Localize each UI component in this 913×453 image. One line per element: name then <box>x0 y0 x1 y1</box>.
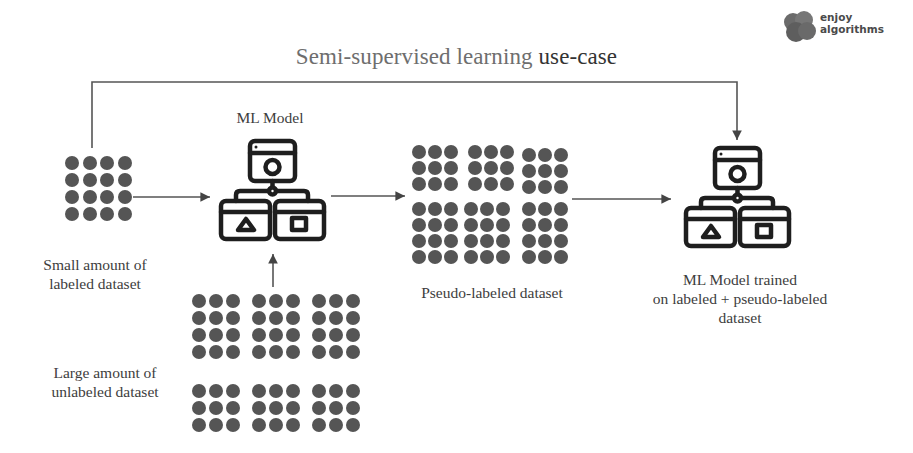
data-point-dot <box>554 148 568 162</box>
data-point-dot <box>480 218 494 232</box>
data-point-dot <box>192 328 206 342</box>
data-point-dot <box>538 164 552 178</box>
data-point-dot <box>554 202 568 216</box>
data-point-dot <box>412 202 426 216</box>
data-point-dot <box>286 294 300 308</box>
data-point-dot <box>269 311 283 325</box>
data-point-dot <box>286 345 300 359</box>
data-point-dot <box>83 190 97 204</box>
data-point-dot <box>312 294 326 308</box>
data-point-dot <box>312 345 326 359</box>
data-point-dot <box>412 234 426 248</box>
data-point-dot <box>500 161 514 175</box>
pseudo-labeled-dataset-label: Pseudo-labeled dataset <box>392 283 592 302</box>
labeled-dataset-dots <box>65 156 132 221</box>
data-point-dot <box>522 202 536 216</box>
data-point-dot <box>428 161 442 175</box>
data-point-dot <box>65 207 79 221</box>
data-point-dot <box>329 418 343 432</box>
data-point-dot <box>428 145 442 159</box>
data-point-dot <box>226 294 240 308</box>
data-point-dot <box>100 190 114 204</box>
data-point-dot <box>554 218 568 232</box>
data-point-dot <box>480 250 494 264</box>
ml-model-label: ML Model <box>205 108 335 127</box>
data-point-dot <box>329 294 343 308</box>
data-point-dot <box>412 161 426 175</box>
data-point-dot <box>496 234 510 248</box>
data-point-dot <box>480 202 494 216</box>
data-point-dot <box>412 177 426 191</box>
data-point-dot <box>464 250 478 264</box>
data-point-dot <box>209 345 223 359</box>
data-point-dot <box>252 294 266 308</box>
data-point-dot <box>484 161 498 175</box>
data-point-dot <box>192 418 206 432</box>
data-point-dot <box>538 234 552 248</box>
data-point-dot <box>444 250 458 264</box>
data-point-dot <box>83 207 97 221</box>
data-point-dot <box>252 311 266 325</box>
data-point-dot <box>226 418 240 432</box>
data-point-dot <box>192 401 206 415</box>
ml-model-hierarchy-icon <box>218 138 328 242</box>
data-point-dot <box>252 418 266 432</box>
data-point-dot <box>444 218 458 232</box>
data-point-dot <box>192 294 206 308</box>
data-point-dot <box>444 161 458 175</box>
data-point-dot <box>269 294 283 308</box>
data-point-dot <box>252 328 266 342</box>
data-point-dot <box>269 345 283 359</box>
data-point-dot <box>118 207 132 221</box>
data-point-dot <box>554 164 568 178</box>
data-point-dot <box>83 173 97 187</box>
data-point-dot <box>468 177 482 191</box>
data-point-dot <box>226 311 240 325</box>
data-point-dot <box>286 401 300 415</box>
data-point-dot <box>464 234 478 248</box>
data-point-dot <box>192 384 206 398</box>
edge-bypass <box>92 82 737 148</box>
data-point-dot <box>286 311 300 325</box>
data-point-dot <box>209 418 223 432</box>
data-point-dot <box>209 401 223 415</box>
data-point-dot <box>412 218 426 232</box>
data-point-dot <box>346 294 360 308</box>
data-point-dot <box>538 148 552 162</box>
data-point-dot <box>329 311 343 325</box>
pseudo-labeled-dataset-dots <box>412 145 572 270</box>
data-point-dot <box>312 401 326 415</box>
data-point-dot <box>269 418 283 432</box>
data-point-dot <box>484 177 498 191</box>
data-point-dot <box>346 328 360 342</box>
labeled-dataset-label: Small amount of labeled dataset <box>20 255 170 293</box>
data-point-dot <box>554 180 568 194</box>
data-point-dot <box>444 177 458 191</box>
data-point-dot <box>329 384 343 398</box>
data-point-dot <box>522 218 536 232</box>
data-point-dot <box>329 328 343 342</box>
data-point-dot <box>269 384 283 398</box>
data-point-dot <box>428 234 442 248</box>
data-point-dot <box>192 311 206 325</box>
data-point-dot <box>209 294 223 308</box>
data-point-dot <box>480 234 494 248</box>
data-point-dot <box>554 250 568 264</box>
data-point-dot <box>346 311 360 325</box>
data-point-dot <box>412 250 426 264</box>
data-point-dot <box>538 180 552 194</box>
data-point-dot <box>286 418 300 432</box>
data-point-dot <box>500 145 514 159</box>
data-point-dot <box>444 234 458 248</box>
data-point-dot <box>346 345 360 359</box>
data-point-dot <box>444 145 458 159</box>
data-point-dot <box>286 384 300 398</box>
data-point-dot <box>484 145 498 159</box>
data-point-dot <box>226 328 240 342</box>
unlabeled-dataset-dots <box>192 294 362 434</box>
data-point-dot <box>346 384 360 398</box>
data-point-dot <box>444 202 458 216</box>
data-point-dot <box>428 177 442 191</box>
data-point-dot <box>65 173 79 187</box>
data-point-dot <box>118 190 132 204</box>
